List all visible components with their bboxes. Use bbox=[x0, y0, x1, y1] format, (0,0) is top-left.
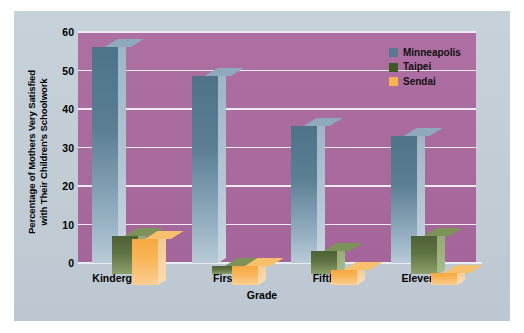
y-axis-tick-label: 30 bbox=[48, 143, 74, 153]
legend-label: Sendai bbox=[403, 77, 436, 87]
legend-swatch-minneapolis bbox=[389, 48, 398, 57]
y-axis-tick-label: 60 bbox=[48, 27, 74, 37]
bar-face bbox=[411, 236, 437, 275]
bar-minneapolis-first bbox=[192, 76, 218, 263]
bar-taipei-eleventh bbox=[411, 236, 437, 275]
bar-top bbox=[403, 128, 442, 136]
y-axis-tick-label: 0 bbox=[48, 258, 74, 268]
chart-figure: Percentage of Mothers Very Satisfied wit… bbox=[0, 0, 524, 333]
bar-side bbox=[437, 231, 445, 274]
bar-side bbox=[158, 234, 166, 285]
bar-top bbox=[204, 68, 243, 76]
bar-minneapolis-kindergarten bbox=[92, 47, 118, 263]
bar-group bbox=[291, 32, 391, 263]
bar-top bbox=[105, 39, 144, 47]
y-axis-tick-label: 40 bbox=[48, 104, 74, 114]
bar-minneapolis-fifth bbox=[291, 126, 317, 263]
bar-top bbox=[423, 228, 462, 236]
legend-swatch-sendai bbox=[389, 77, 398, 86]
bar-side bbox=[317, 121, 325, 263]
bar-side bbox=[118, 42, 126, 263]
legend-item-taipei: Taipei bbox=[389, 62, 461, 73]
bar-face bbox=[92, 47, 118, 263]
bar-sendai-eleventh bbox=[431, 273, 457, 285]
y-axis-title-line-1: Percentage of Mothers Very Satisfied bbox=[26, 70, 37, 234]
bar-face bbox=[431, 273, 457, 285]
y-axis-ticks: 0102030405060 bbox=[46, 0, 74, 310]
bar-face bbox=[192, 76, 218, 263]
chart-legend: MinneapolisTaipeiSendai bbox=[389, 47, 461, 87]
bar-group bbox=[92, 32, 192, 263]
bar-sendai-kindergarten bbox=[132, 239, 158, 285]
bar-face bbox=[291, 126, 317, 263]
legend-swatch-taipei bbox=[389, 63, 398, 72]
bar-face bbox=[331, 270, 357, 285]
y-axis-tick-label: 20 bbox=[48, 181, 74, 191]
y-axis-tick-label: 50 bbox=[48, 66, 74, 76]
bar-sendai-fifth bbox=[331, 270, 357, 285]
legend-label: Taipei bbox=[403, 62, 431, 72]
bar-side bbox=[218, 71, 226, 263]
bar-face bbox=[132, 239, 158, 285]
y-axis-tick-label: 10 bbox=[48, 220, 74, 230]
legend-item-minneapolis: Minneapolis bbox=[389, 47, 461, 58]
bar-sendai-first bbox=[232, 266, 258, 285]
legend-item-sendai: Sendai bbox=[389, 76, 461, 87]
bar-top bbox=[324, 243, 363, 251]
bar-top bbox=[304, 118, 343, 126]
bar-group bbox=[192, 32, 292, 263]
legend-label: Minneapolis bbox=[403, 48, 461, 58]
bar-face bbox=[232, 266, 258, 285]
x-axis-title: Grade bbox=[0, 289, 524, 301]
